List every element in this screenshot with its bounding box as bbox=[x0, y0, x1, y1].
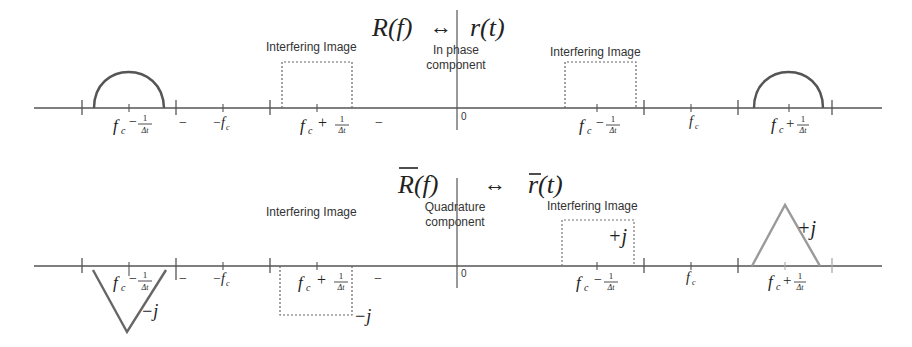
bottom-label-fc-plus-right: f c + 1 Δt bbox=[768, 271, 806, 292]
bottom-right-box-value: +j bbox=[608, 225, 627, 248]
top-label-fc-minus-left: f c − 1 Δt bbox=[113, 113, 152, 136]
bottom-panel: R(f) ↔ r(t) Quadrature component Interfe… bbox=[34, 168, 882, 332]
svg-text:c: c bbox=[776, 281, 781, 292]
top-panel: R(f) ↔ r(t) In phase component Interferi… bbox=[34, 10, 882, 136]
svg-text:c: c bbox=[306, 282, 311, 293]
top-label-fc-plus-mid: f c + 1 Δt bbox=[300, 114, 349, 136]
svg-text:1: 1 bbox=[611, 114, 616, 124]
top-left-interfering-box bbox=[282, 62, 352, 108]
top-title-rhs: r(t) bbox=[470, 13, 505, 42]
bottom-right-image-label: Interfering Image bbox=[547, 199, 638, 213]
top-label-fc: f c bbox=[689, 114, 699, 131]
svg-text:1: 1 bbox=[339, 271, 344, 281]
top-left-spectrum-lobe bbox=[94, 72, 164, 108]
svg-text:+: + bbox=[786, 115, 794, 131]
bottom-label-neg-fc: − f c bbox=[213, 271, 230, 288]
svg-text:Δt: Δt bbox=[141, 126, 150, 135]
svg-text:1: 1 bbox=[609, 271, 614, 281]
top-center-label-2: component bbox=[426, 58, 486, 72]
top-right-spectrum-lobe bbox=[754, 72, 823, 108]
svg-text:c: c bbox=[226, 279, 230, 288]
svg-text:−: − bbox=[596, 115, 604, 130]
bottom-left-box-value: −j bbox=[354, 306, 371, 326]
svg-text:c: c bbox=[692, 278, 696, 287]
top-label-dash-1: − bbox=[179, 115, 187, 130]
svg-text:Δt: Δt bbox=[338, 126, 347, 135]
svg-text:Δt: Δt bbox=[141, 283, 150, 292]
bottom-label-fc: f c bbox=[686, 270, 696, 287]
top-title-lhs: R(f) bbox=[371, 13, 412, 42]
svg-text:Δt: Δt bbox=[607, 283, 616, 292]
bottom-label-fc-plus-mid: f c + 1 Δt bbox=[298, 271, 348, 293]
bottom-center-label-1: Quadrature bbox=[425, 200, 486, 214]
svg-text:−: − bbox=[213, 115, 220, 130]
svg-text:f: f bbox=[771, 115, 778, 134]
bottom-left-v-value: −j bbox=[141, 301, 158, 321]
bottom-left-image-label: Interfering Image bbox=[266, 205, 357, 219]
svg-text:c: c bbox=[695, 122, 699, 131]
svg-text:1: 1 bbox=[143, 270, 148, 280]
svg-text:c: c bbox=[308, 125, 313, 136]
svg-text:f: f bbox=[576, 273, 583, 292]
svg-text:c: c bbox=[587, 125, 592, 136]
svg-text:c: c bbox=[121, 125, 126, 136]
top-origin-label: 0 bbox=[461, 111, 467, 122]
svg-text:−: − bbox=[129, 114, 137, 129]
top-right-image-label: Interfering Image bbox=[550, 45, 641, 59]
bottom-right-triangle-value: +j bbox=[797, 217, 816, 240]
bottom-origin-label: 0 bbox=[461, 268, 467, 279]
svg-text:Δt: Δt bbox=[609, 126, 618, 135]
svg-text:1: 1 bbox=[798, 271, 803, 281]
svg-text:Δt: Δt bbox=[337, 283, 346, 292]
bottom-label-fc-minus-right: f c − 1 Δt bbox=[576, 271, 618, 293]
top-right-interfering-box bbox=[565, 62, 636, 108]
top-label-fc-minus-right: f c − 1 Δt bbox=[579, 114, 620, 136]
svg-text:Δt: Δt bbox=[796, 283, 805, 292]
bottom-label-fc-minus-left: f c − 1 Δt bbox=[113, 270, 152, 293]
diagram-canvas: R(f) ↔ r(t) In phase component Interferi… bbox=[0, 0, 912, 347]
top-label-dash-2: − bbox=[375, 115, 383, 130]
svg-text:1: 1 bbox=[340, 114, 345, 124]
bottom-title-lhs: R(f) bbox=[397, 170, 438, 199]
svg-text:f: f bbox=[113, 273, 120, 292]
top-title-arrow: ↔ bbox=[430, 14, 452, 39]
top-label-fc-plus-right: f c + 1 Δt bbox=[771, 114, 809, 135]
svg-text:c: c bbox=[584, 282, 589, 293]
svg-text:−: − bbox=[213, 271, 220, 286]
svg-text:+: + bbox=[783, 272, 791, 288]
svg-text:+: + bbox=[318, 114, 327, 131]
svg-text:f: f bbox=[579, 116, 586, 135]
svg-text:Δt: Δt bbox=[799, 126, 808, 135]
top-center-label-1: In phase bbox=[433, 43, 479, 57]
svg-text:+: + bbox=[317, 271, 326, 288]
svg-text:−: − bbox=[594, 272, 602, 287]
bottom-label-dash-2: − bbox=[374, 271, 382, 286]
svg-text:c: c bbox=[226, 123, 230, 132]
svg-text:c: c bbox=[121, 282, 126, 293]
svg-text:c: c bbox=[779, 124, 784, 135]
svg-text:f: f bbox=[298, 273, 305, 292]
svg-text:−: − bbox=[129, 271, 137, 286]
svg-text:f: f bbox=[113, 116, 120, 135]
svg-text:1: 1 bbox=[143, 113, 148, 123]
top-left-image-label: Interfering Image bbox=[266, 40, 357, 54]
svg-text:1: 1 bbox=[801, 114, 806, 124]
bottom-label-dash-1: − bbox=[179, 271, 187, 286]
top-label-neg-fc: − f c bbox=[213, 115, 230, 132]
bottom-title-arrow: ↔ bbox=[484, 171, 506, 196]
svg-text:f: f bbox=[300, 116, 307, 135]
svg-text:f: f bbox=[768, 272, 775, 291]
bottom-center-label-2: component bbox=[425, 215, 485, 229]
